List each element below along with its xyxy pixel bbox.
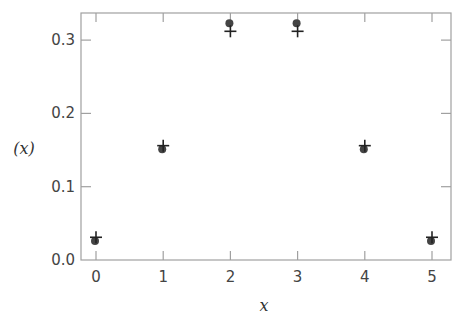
plus-marker <box>224 25 236 37</box>
y-axis-label: (x) <box>13 139 35 158</box>
y-tick-label: 0.1 <box>51 178 75 196</box>
dot-marker <box>225 19 233 27</box>
x-axis-ticks: 012345 <box>91 13 437 286</box>
x-tick-label: 5 <box>427 268 437 286</box>
y-tick-label: 0.2 <box>51 104 75 122</box>
x-tick-label: 3 <box>293 268 303 286</box>
y-axis-ticks: 0.00.10.20.3 <box>51 31 451 269</box>
data-points <box>90 19 438 245</box>
dot-marker <box>427 237 435 245</box>
plus-marker <box>292 25 304 37</box>
y-tick-label: 0.3 <box>51 31 75 49</box>
dot-marker <box>158 145 166 153</box>
x-axis-label: x <box>259 296 268 315</box>
scatter-chart: 012345 0.00.10.20.3 x (x) <box>0 0 461 326</box>
x-tick-label: 1 <box>158 268 168 286</box>
x-tick-label: 4 <box>360 268 370 286</box>
x-tick-label: 0 <box>91 268 101 286</box>
dot-marker <box>293 19 301 27</box>
dot-marker <box>91 237 99 245</box>
plot-frame <box>81 13 451 260</box>
x-tick-label: 2 <box>226 268 236 286</box>
y-tick-label: 0.0 <box>51 251 75 269</box>
dot-marker <box>360 145 368 153</box>
